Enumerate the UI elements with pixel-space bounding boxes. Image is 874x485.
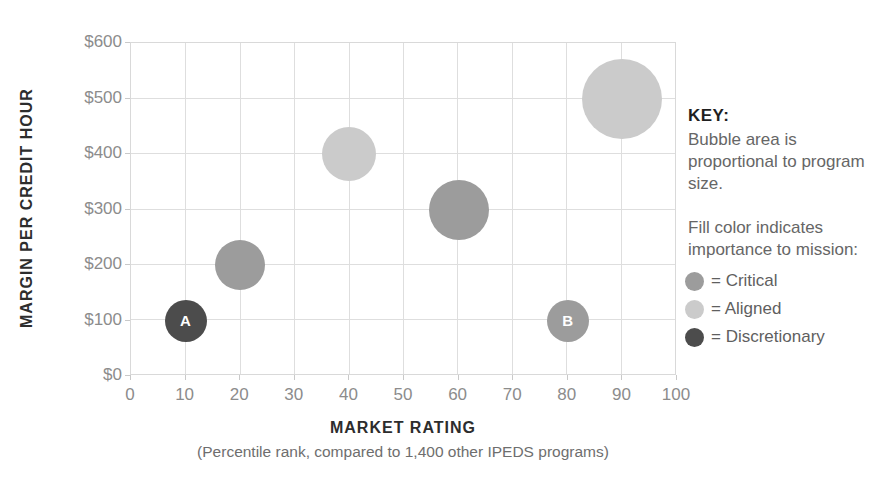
x-tick-mark	[403, 375, 404, 380]
y-tick-label: $400	[84, 143, 122, 163]
x-tick-mark	[567, 375, 568, 380]
y-tick-label: $0	[103, 365, 122, 385]
legend-row-aligned: = Aligned	[685, 299, 866, 319]
bubble-B: B	[547, 300, 589, 342]
bubble-90-500	[582, 59, 662, 139]
y-tick-mark	[125, 264, 130, 265]
legend-dot-critical	[685, 272, 704, 291]
bubble-60-300	[429, 180, 489, 240]
key-text-bubble-size: Bubble area is proportional to program s…	[688, 129, 866, 195]
legend-label: = Aligned	[711, 299, 781, 319]
y-tick-label: $100	[84, 310, 122, 330]
legend-label: = Critical	[711, 271, 778, 291]
x-tick-mark	[676, 375, 677, 380]
gridline-horizontal	[131, 153, 675, 154]
x-tick-mark	[458, 375, 459, 380]
key-heading: KEY:	[688, 106, 866, 126]
y-tick-mark	[125, 209, 130, 210]
y-tick-label: $600	[84, 32, 122, 52]
x-tick-mark	[130, 375, 131, 380]
gridline-horizontal	[131, 209, 675, 210]
x-tick-label: 30	[284, 385, 303, 405]
bubble-A: A	[165, 300, 207, 342]
legend-label: = Discretionary	[711, 327, 825, 347]
gridline-horizontal	[131, 319, 675, 320]
x-tick-label: 10	[175, 385, 194, 405]
x-tick-label: 60	[448, 385, 467, 405]
key-text-fill-color: Fill color indicates importance to missi…	[688, 217, 866, 261]
x-tick-label: 0	[125, 385, 134, 405]
y-tick-mark	[125, 98, 130, 99]
x-axis-subtitle: (Percentile rank, compared to 1,400 othe…	[130, 443, 676, 461]
plot-area: AB	[130, 42, 676, 375]
legend-dot-discretionary	[685, 328, 704, 347]
x-tick-label: 50	[394, 385, 413, 405]
y-tick-mark	[125, 320, 130, 321]
bubble-20-200	[215, 240, 265, 290]
x-tick-mark	[348, 375, 349, 380]
y-tick-mark	[125, 375, 130, 376]
x-tick-label: 20	[230, 385, 249, 405]
x-tick-label: 100	[662, 385, 690, 405]
y-tick-label: $500	[84, 88, 122, 108]
y-tick-mark	[125, 42, 130, 43]
legend-row-discretionary: = Discretionary	[685, 327, 866, 347]
x-tick-mark	[621, 375, 622, 380]
bubble-40-400	[322, 127, 376, 181]
x-tick-label: 40	[339, 385, 358, 405]
y-tick-label: $300	[84, 199, 122, 219]
x-tick-mark	[185, 375, 186, 380]
legend-dot-aligned	[685, 300, 704, 319]
y-tick-mark	[125, 153, 130, 154]
bubble-chart: MARGIN PER CREDIT HOUR $0$100$200$300$40…	[0, 0, 874, 485]
y-tick-label: $200	[84, 254, 122, 274]
x-axis-title: MARKET RATING	[130, 419, 676, 437]
x-tick-label: 70	[503, 385, 522, 405]
x-tick-mark	[294, 375, 295, 380]
legend: = Critical= Aligned= Discretionary	[688, 271, 866, 347]
x-tick-mark	[512, 375, 513, 380]
x-tick-label: 80	[557, 385, 576, 405]
x-tick-label: 90	[612, 385, 631, 405]
x-tick-mark	[239, 375, 240, 380]
legend-row-critical: = Critical	[685, 271, 866, 291]
gridline-horizontal	[131, 264, 675, 265]
key-panel: KEY: Bubble area is proportional to prog…	[688, 106, 866, 347]
y-axis-tick-labels: $0$100$200$300$400$500$600	[0, 42, 122, 375]
x-axis-tick-labels: 0102030405060708090100	[130, 385, 676, 405]
